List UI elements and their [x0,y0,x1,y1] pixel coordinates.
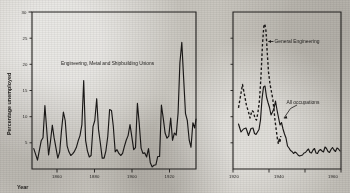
left-x-ticklabels: 1860 1880 1900 1920 [52,174,175,179]
left-panel: 30 25 20 15 10 5 1860 1880 1900 1920 Per… [6,10,196,190]
y-ticklabel-10: 10 [23,114,28,119]
x-ticklabel-1940-right: 1940 [274,174,284,179]
right-panel: 1920 1940 1960 General Engineering All o… [229,12,341,179]
x-ticklabel-1900: 1900 [127,174,137,179]
y-ticklabel-5: 5 [25,140,28,145]
left-plot-title: Engineering, Metal and Shipbuilding Unio… [61,61,155,66]
x-ticklabel-1960-right: 1960 [328,174,338,179]
right-x-ticklabels: 1920 1940 1960 [229,174,338,179]
annotation-general-engineering: General Engineering [268,39,320,44]
x-ticklabel-1920-right: 1920 [229,174,239,179]
left-panel-frame [32,12,196,169]
y-ticklabel-25: 25 [23,36,28,41]
figure-svg: 30 25 20 15 10 5 1860 1880 1900 1920 Per… [0,0,350,193]
annotation-label-all-occupations: All occupations [287,100,320,105]
annotation-all-occupations: All occupations [284,100,320,119]
left-y-ticklabels: 30 25 20 15 10 5 [22,10,28,146]
x-ticklabel-1880: 1880 [90,174,100,179]
x-ticklabel-1920: 1920 [165,174,175,179]
figure-container: 30 25 20 15 10 5 1860 1880 1900 1920 Per… [0,0,350,193]
x-ticklabel-1860: 1860 [52,174,62,179]
x-axis-title: Year [17,184,29,190]
annotation-label-general-engineering: General Engineering [275,39,320,44]
y-ticklabel-20: 20 [23,62,28,67]
series-all-occupations [239,86,341,156]
y-axis-title: Percentage unemployed [6,73,12,135]
y-ticklabel-15: 15 [23,88,28,93]
y-ticklabel-30: 30 [22,10,27,15]
arrow-head-icon [268,40,271,43]
